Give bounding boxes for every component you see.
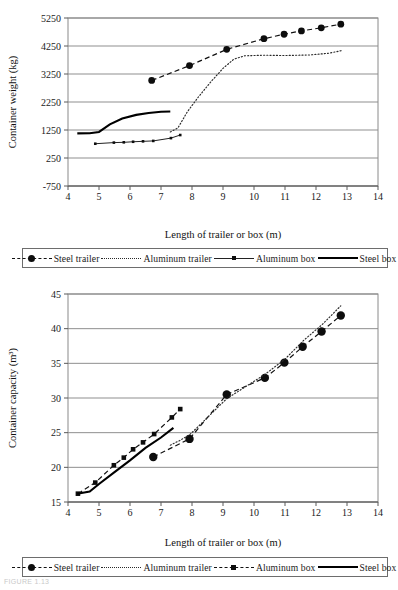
legend-entry-aluminum-box[interactable]: Aluminum box xyxy=(214,562,318,573)
datapoint-steel-trailer-6 xyxy=(318,24,325,31)
legend-swatch-steel-box xyxy=(318,562,358,573)
datapoint-aluminum-box-0 xyxy=(94,142,97,145)
y-tick-label-2250: 2250 xyxy=(41,97,61,108)
legend-entry-steel-trailer[interactable]: Steel trailer xyxy=(12,253,102,264)
legend-entry-steel-box[interactable]: Steel box xyxy=(318,253,398,264)
datapoint-steel-trailer-7 xyxy=(337,311,345,319)
x-tick-label-10: 10 xyxy=(249,191,259,202)
chart-container-capacity: 152025303540454567891011121314Container … xyxy=(0,284,398,584)
datapoint-aluminum-box-3 xyxy=(132,140,135,143)
capacity-plot-svg: 152025303540454567891011121314Container … xyxy=(0,284,398,556)
legend-swatch-aluminum-box xyxy=(214,562,254,573)
datapoint-steel-trailer-1 xyxy=(186,62,193,69)
legend-swatch-aluminum-trailer xyxy=(101,253,141,264)
y-tick-label-4250: 4250 xyxy=(41,41,61,52)
y-tick-label-45: 45 xyxy=(51,289,61,300)
legend-container-capacity: Steel trailerAluminum trailerAluminum bo… xyxy=(22,557,388,577)
datapoint-steel-trailer-2 xyxy=(223,46,230,53)
legend-label-aluminum-box: Aluminum box xyxy=(254,253,318,264)
legend-label-steel-trailer: Steel trailer xyxy=(52,562,102,573)
datapoint-aluminum-box-6 xyxy=(152,432,157,437)
legend-label-steel-trailer: Steel trailer xyxy=(52,253,102,264)
datapoint-aluminum-box-6 xyxy=(170,137,173,140)
x-tick-label-8: 8 xyxy=(190,507,195,518)
y-tick-label-3250: 3250 xyxy=(41,69,61,80)
series-line-aluminum-box xyxy=(95,135,180,144)
y-axis-title: Container capacity (m³) xyxy=(7,348,19,448)
y-axis-title: Container weight (kg) xyxy=(7,55,19,148)
legend-entry-aluminum-trailer[interactable]: Aluminum trailer xyxy=(101,562,213,573)
y-tick-label-40: 40 xyxy=(51,323,61,334)
y-tick-label-5250: 5250 xyxy=(41,13,61,24)
x-tick-label-12: 12 xyxy=(311,507,321,518)
legend-swatch-steel-box xyxy=(318,253,358,264)
series-line-aluminum-trailer xyxy=(170,306,340,445)
x-tick-label-4: 4 xyxy=(66,191,71,202)
legend-container-weight: Steel trailerAluminum trailerAluminum bo… xyxy=(22,248,388,268)
datapoint-aluminum-box-4 xyxy=(142,140,145,143)
x-tick-label-11: 11 xyxy=(280,507,290,518)
y-tick-label--750: -750 xyxy=(43,181,61,192)
x-tick-label-12: 12 xyxy=(311,191,321,202)
datapoint-steel-trailer-4 xyxy=(281,31,288,38)
figure-container: -750250125022503250425052504567891011121… xyxy=(0,0,398,590)
series-line-steel-box xyxy=(77,428,173,494)
x-tick-label-9: 9 xyxy=(221,191,226,202)
datapoint-aluminum-box-3 xyxy=(122,455,127,460)
datapoint-aluminum-box-7 xyxy=(170,415,175,420)
datapoint-aluminum-box-2 xyxy=(112,463,117,468)
x-tick-label-6: 6 xyxy=(128,191,133,202)
datapoint-aluminum-box-5 xyxy=(152,140,155,143)
x-tick-label-6: 6 xyxy=(128,507,133,518)
x-tick-label-13: 13 xyxy=(342,507,352,518)
x-tick-label-7: 7 xyxy=(159,191,164,202)
x-tick-label-8: 8 xyxy=(190,191,195,202)
figure-caption: FIGURE 1.13 xyxy=(4,578,49,585)
legend-label-steel-box: Steel box xyxy=(358,253,398,264)
y-tick-label-1250: 1250 xyxy=(41,125,61,136)
legend-swatch-steel-trailer xyxy=(12,562,52,573)
datapoint-steel-trailer-5 xyxy=(298,342,306,350)
y-tick-label-20: 20 xyxy=(51,462,61,473)
datapoint-aluminum-box-1 xyxy=(93,480,98,485)
datapoint-aluminum-box-2 xyxy=(123,141,126,144)
x-axis-title: Length of trailer or box (m) xyxy=(165,229,282,241)
datapoint-steel-trailer-5 xyxy=(298,27,305,34)
legend-entry-steel-box[interactable]: Steel box xyxy=(318,562,398,573)
series-line-steel-trailer xyxy=(152,24,341,80)
legend-entry-aluminum-box[interactable]: Aluminum box xyxy=(214,253,318,264)
datapoint-aluminum-box-5 xyxy=(141,440,146,445)
series-line-aluminum-trailer xyxy=(170,50,342,131)
legend-swatch-aluminum-trailer xyxy=(101,562,141,573)
datapoint-aluminum-box-4 xyxy=(131,447,136,452)
datapoint-steel-trailer-7 xyxy=(337,21,344,28)
datapoint-steel-trailer-1 xyxy=(185,435,193,443)
y-tick-label-250: 250 xyxy=(46,153,61,164)
legend-swatch-steel-trailer xyxy=(12,253,52,264)
datapoint-steel-trailer-3 xyxy=(261,35,268,42)
legend-entry-aluminum-trailer[interactable]: Aluminum trailer xyxy=(101,253,213,264)
x-tick-label-14: 14 xyxy=(373,191,383,202)
y-tick-label-30: 30 xyxy=(51,393,61,404)
weight-plot-svg: -750250125022503250425052504567891011121… xyxy=(0,0,398,248)
y-tick-label-25: 25 xyxy=(51,427,61,438)
legend-swatch-aluminum-box xyxy=(214,253,254,264)
datapoint-steel-trailer-0 xyxy=(148,77,155,84)
datapoint-aluminum-box-8 xyxy=(178,407,183,412)
chart-container-weight: -750250125022503250425052504567891011121… xyxy=(0,0,398,272)
x-tick-label-7: 7 xyxy=(159,507,164,518)
legend-label-aluminum-box: Aluminum box xyxy=(254,562,318,573)
y-tick-label-35: 35 xyxy=(51,358,61,369)
legend-label-aluminum-trailer: Aluminum trailer xyxy=(141,253,213,264)
y-tick-label-15: 15 xyxy=(51,497,61,508)
datapoint-aluminum-box-7 xyxy=(179,134,182,137)
legend-label-steel-box: Steel box xyxy=(358,562,398,573)
datapoint-aluminum-box-1 xyxy=(113,141,116,144)
legend-entry-steel-trailer[interactable]: Steel trailer xyxy=(12,562,102,573)
x-tick-label-5: 5 xyxy=(97,507,102,518)
legend-label-aluminum-trailer: Aluminum trailer xyxy=(141,562,213,573)
x-tick-label-4: 4 xyxy=(66,507,71,518)
x-axis-title: Length of trailer or box (m) xyxy=(165,537,282,549)
x-tick-label-10: 10 xyxy=(249,507,259,518)
datapoint-steel-trailer-6 xyxy=(317,327,325,335)
